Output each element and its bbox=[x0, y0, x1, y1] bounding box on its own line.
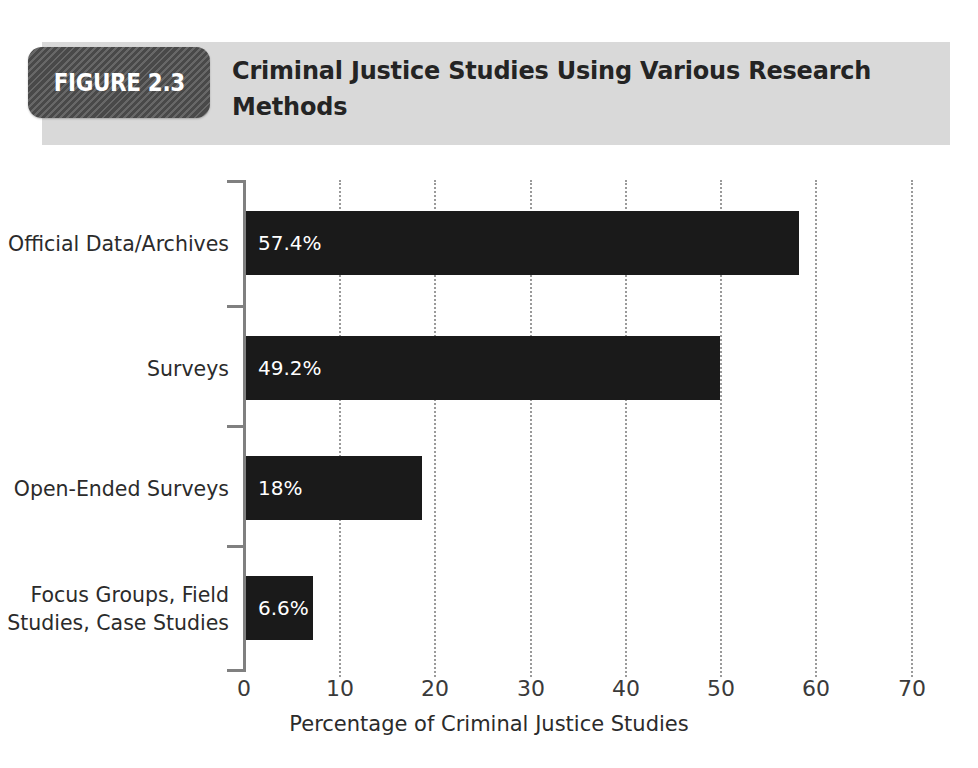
bar-official-data-archives: 57.4% bbox=[246, 211, 799, 275]
y-axis-tick bbox=[227, 180, 244, 183]
y-axis-category-label: Official Data/Archives bbox=[0, 230, 229, 258]
x-axis-tick-label-40: 40 bbox=[596, 676, 656, 701]
bar-value-label: 57.4% bbox=[258, 231, 322, 255]
gridline-60 bbox=[815, 180, 817, 677]
x-axis-tick-label-30: 30 bbox=[501, 676, 561, 701]
y-axis-category-label: Open-Ended Surveys bbox=[0, 475, 229, 503]
gridline-70 bbox=[911, 180, 913, 677]
x-axis-tick-label-60: 60 bbox=[786, 676, 846, 701]
y-axis-tick bbox=[227, 425, 244, 428]
x-axis-tick-label-10: 10 bbox=[310, 676, 370, 701]
y-axis-tick bbox=[227, 305, 244, 308]
bar-open-ended-surveys: 18% bbox=[246, 456, 422, 520]
bar-surveys: 49.2% bbox=[246, 336, 720, 400]
bar-focus-groups-field-studies-case-studies: 6.6% bbox=[246, 576, 313, 640]
bar-value-label: 49.2% bbox=[258, 356, 322, 380]
x-axis-tick-label-70: 70 bbox=[882, 676, 942, 701]
bar-value-label: 6.6% bbox=[258, 596, 309, 620]
y-axis-category-label: Focus Groups, Field Studies, Case Studie… bbox=[0, 581, 229, 637]
y-axis-category-label: Surveys bbox=[0, 355, 229, 383]
x-axis-tick-label-0: 0 bbox=[214, 676, 274, 701]
x-axis-tick-label-50: 50 bbox=[691, 676, 751, 701]
bar-value-label: 18% bbox=[258, 476, 302, 500]
x-axis-tick-label-20: 20 bbox=[405, 676, 465, 701]
x-axis-title: Percentage of Criminal Justice Studies bbox=[0, 712, 978, 736]
y-axis-tick bbox=[227, 545, 244, 548]
bar-chart: 57.4% 49.2% 18% 6.6% Official Data/Archi… bbox=[0, 0, 978, 768]
y-axis-tick bbox=[227, 669, 244, 672]
